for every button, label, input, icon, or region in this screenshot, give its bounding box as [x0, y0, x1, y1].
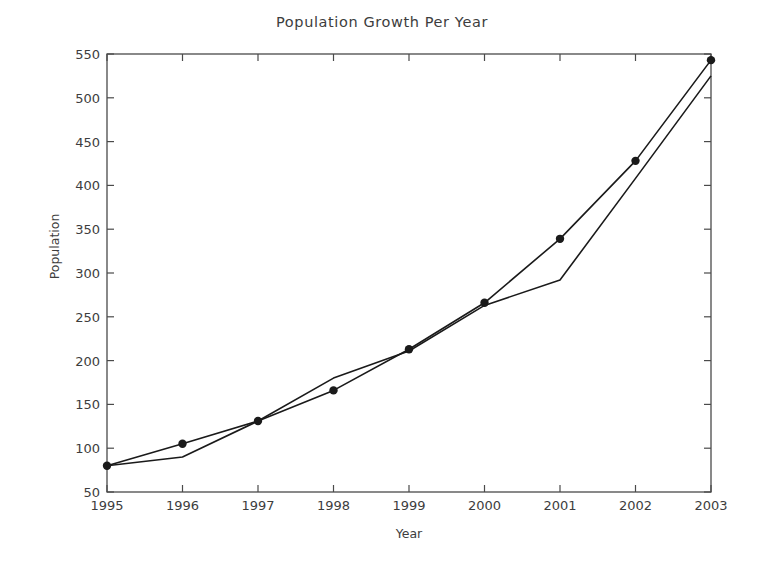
plot-area — [0, 0, 764, 567]
data-point-observed-1996 — [178, 440, 186, 448]
data-point-observed-2003 — [707, 56, 715, 64]
chart-figure: Population Growth Per Year Population 50… — [0, 0, 764, 567]
data-point-observed-2001 — [556, 235, 564, 243]
series-line-trend — [107, 76, 711, 466]
data-point-observed-2002 — [631, 157, 639, 165]
plot-frame — [107, 54, 711, 492]
series-line-observed — [107, 60, 711, 466]
data-point-observed-1998 — [329, 386, 337, 394]
